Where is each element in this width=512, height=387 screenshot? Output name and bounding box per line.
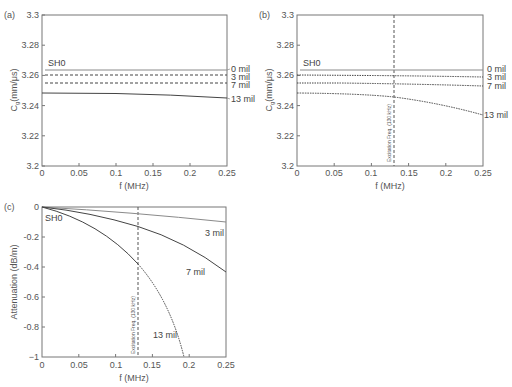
y-tick-label: 3.26 <box>21 70 39 80</box>
y-axis-title-a: Cg(mm/μs) <box>9 68 20 111</box>
series-label-13mil-a: 13 mil <box>231 94 255 104</box>
y-tick-label: -0.8 <box>23 322 39 332</box>
y-tick-label: 3.3 <box>281 10 294 20</box>
y-tick-label: 3.24 <box>276 101 294 111</box>
series-3mil-c <box>42 207 226 222</box>
panel-c: (c) 0 -0.2 -0.4 -0.6 -0.8 −1 0 0.05 0.1 … <box>4 202 235 383</box>
x-tick-label: 0.15 <box>143 360 161 370</box>
x-tick-label: 0.25 <box>217 360 235 370</box>
y-axis-title-c: Attenuation (dB/m) <box>9 244 19 319</box>
series-label-13mil-c: 13 mil <box>153 330 177 340</box>
panel-label-a: (a) <box>4 10 15 20</box>
y-tick-label: 3.22 <box>21 131 39 141</box>
y-tick-label: −1 <box>29 352 39 362</box>
series-13mil-a <box>42 93 227 98</box>
y-tick-label: 3.3 <box>26 10 39 20</box>
mode-label-c: SH0 <box>45 213 63 223</box>
y-tick-labels-c: 0 -0.2 -0.4 -0.6 -0.8 −1 <box>23 202 39 362</box>
x-tick-label: 0.1 <box>365 168 378 178</box>
series-label-7mil-c: 7 mil <box>186 267 205 277</box>
x-tick-label: 0.2 <box>183 360 196 370</box>
excitation-annotation-c: Excitation Freq. (130 kHz) <box>130 296 136 354</box>
x-tick-label: 0.05 <box>325 168 343 178</box>
x-axis-title-a: f (MHz) <box>119 181 149 191</box>
y-axis-title-b: Cg(mm/μs) <box>264 68 275 111</box>
series-label-13mil-b: 13 mil <box>484 110 508 120</box>
x-axis-title-c: f (MHz) <box>119 373 149 383</box>
x-axis-title-b: f (MHz) <box>375 181 405 191</box>
y-tick-label: 3.24 <box>21 101 39 111</box>
y-tick-label: 3.22 <box>276 131 294 141</box>
y-tick-label: 3.2 <box>26 161 39 171</box>
panel-label-c: (c) <box>4 202 15 212</box>
series-label-7mil-a: 7 mil <box>231 80 250 90</box>
x-tick-label: 0.25 <box>474 168 492 178</box>
mode-label-a: SH0 <box>48 58 66 68</box>
y-tick-label: 3.28 <box>21 40 39 50</box>
x-tick-labels-c: 0 0.05 0.1 0.15 0.2 0.25 <box>39 360 234 370</box>
mode-label-b: SH0 <box>303 58 321 68</box>
y-tick-labels-b: 3.3 3.28 3.26 3.24 3.22 3.2 <box>276 10 294 171</box>
x-tick-label: 0.05 <box>70 360 88 370</box>
x-tick-label: 0 <box>294 168 299 178</box>
y-tick-label: 0 <box>34 202 39 212</box>
y-tick-label: 3.2 <box>281 161 294 171</box>
y-tick-label: 3.28 <box>276 40 294 50</box>
series-7mil-c <box>42 207 226 272</box>
x-tick-label: 0.1 <box>110 360 123 370</box>
panel-a: (a) 3.3 3.28 3.26 3.24 3.22 3.2 0 0.05 0… <box>4 10 255 191</box>
panel-label-b: (b) <box>259 10 270 20</box>
x-tick-label: 0.2 <box>440 168 453 178</box>
x-tick-label: 0.05 <box>70 168 88 178</box>
y-ticks-a <box>42 15 190 166</box>
series-label-3mil-c: 3 mil <box>205 228 224 238</box>
series-7mil-b <box>297 83 483 86</box>
y-tick-label: -0.6 <box>23 292 39 302</box>
y-tick-label: -0.2 <box>23 232 39 242</box>
x-tick-label: 0.15 <box>144 168 162 178</box>
x-tick-label: 0 <box>39 168 44 178</box>
panel-b: (b) 3.3 3.28 3.26 3.24 3.22 3.2 0 0.05 0… <box>259 10 508 191</box>
x-tick-label: 0.2 <box>184 168 197 178</box>
x-tick-label: 0.15 <box>400 168 418 178</box>
x-tick-label: 0.1 <box>110 168 123 178</box>
series-3mil-b <box>297 75 483 77</box>
x-tick-labels-a: 0 0.05 0.1 0.15 0.2 0.25 <box>39 168 235 178</box>
x-tick-label: 0.25 <box>218 168 236 178</box>
series-label-7mil-b: 7 mil <box>487 81 506 91</box>
figure-canvas: (a) 3.3 3.28 3.26 3.24 3.22 3.2 0 0.05 0… <box>0 0 512 387</box>
x-tick-label: 0 <box>39 360 44 370</box>
excitation-annotation-b: Excitation Freq. (130 kHz) <box>386 104 392 162</box>
y-tick-label: -0.4 <box>23 262 39 272</box>
x-tick-labels-b: 0 0.05 0.1 0.15 0.2 0.25 <box>294 168 491 178</box>
y-tick-labels-a: 3.3 3.28 3.26 3.24 3.22 3.2 <box>21 10 39 171</box>
y-tick-label: 3.26 <box>276 70 294 80</box>
plot-frame-a <box>42 15 227 166</box>
series-13mil-c-dotted <box>138 264 184 357</box>
